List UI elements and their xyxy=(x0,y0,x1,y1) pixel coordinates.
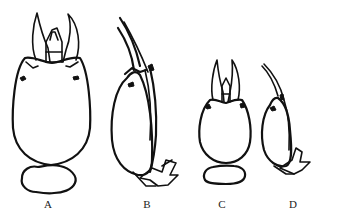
panel-c-drawing xyxy=(199,60,250,184)
panel-a-drawing xyxy=(13,13,90,193)
panel-label-c: C xyxy=(218,198,225,210)
panel-b-drawing xyxy=(112,18,178,186)
panel-label-a: A xyxy=(44,198,52,210)
specimen-drawings xyxy=(0,0,337,216)
panel-d-drawing xyxy=(262,64,310,174)
figure: A B C D xyxy=(0,0,337,216)
panel-label-d: D xyxy=(289,198,297,210)
panel-label-b: B xyxy=(143,198,150,210)
